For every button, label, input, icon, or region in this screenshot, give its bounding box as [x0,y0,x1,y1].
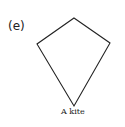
figure-caption: A kite [61,107,85,117]
kite-shape [37,18,110,106]
